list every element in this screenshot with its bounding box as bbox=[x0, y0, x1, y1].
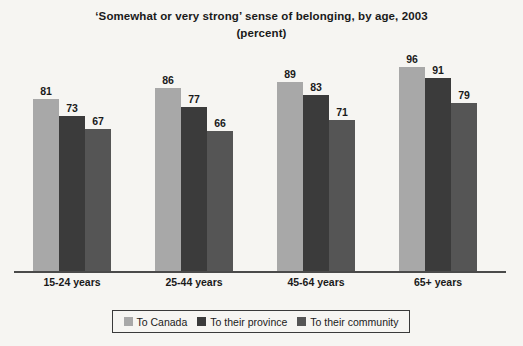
legend-label: To their community bbox=[310, 316, 398, 328]
bar-group: 817367 bbox=[33, 60, 111, 271]
legend-item[interactable]: To Canada bbox=[124, 316, 188, 328]
bar[interactable]: 83 bbox=[303, 95, 329, 271]
legend-item[interactable]: To their community bbox=[297, 316, 398, 328]
bar[interactable]: 67 bbox=[85, 129, 111, 271]
bar[interactable]: 77 bbox=[181, 107, 207, 271]
bar-value-label: 71 bbox=[336, 106, 348, 118]
bar-value-label: 83 bbox=[310, 81, 322, 93]
bar-value-label: 81 bbox=[40, 85, 52, 97]
bar-value-label: 67 bbox=[92, 115, 104, 127]
category-axis-labels: 15-24 years25-44 years45-64 years65+ yea… bbox=[14, 276, 506, 292]
bar[interactable]: 66 bbox=[207, 131, 233, 271]
bar-value-label: 91 bbox=[432, 64, 444, 76]
bar-group: 969179 bbox=[399, 60, 477, 271]
chart-subtitle: (percent) bbox=[0, 25, 523, 42]
legend-label: To their province bbox=[210, 316, 287, 328]
chart-title: ‘Somewhat or very strong’ sense of belon… bbox=[0, 8, 523, 42]
bar[interactable]: 89 bbox=[277, 82, 303, 271]
bar-chart: ‘Somewhat or very strong’ sense of belon… bbox=[0, 0, 523, 346]
bar-value-label: 77 bbox=[188, 93, 200, 105]
legend-label: To Canada bbox=[137, 316, 188, 328]
category-label: 15-24 years bbox=[33, 276, 111, 288]
bar[interactable]: 96 bbox=[399, 67, 425, 271]
bar-group: 867766 bbox=[155, 60, 233, 271]
bar[interactable]: 86 bbox=[155, 88, 181, 271]
bar[interactable]: 81 bbox=[33, 99, 59, 271]
bar-value-label: 79 bbox=[458, 89, 470, 101]
bar[interactable]: 91 bbox=[425, 78, 451, 271]
bar[interactable]: 73 bbox=[59, 116, 85, 271]
category-label: 25-44 years bbox=[155, 276, 233, 288]
bar-value-label: 96 bbox=[406, 53, 418, 65]
plot-area: 817367867766898371969179 bbox=[14, 60, 506, 273]
bar-value-label: 89 bbox=[284, 68, 296, 80]
bar[interactable]: 79 bbox=[451, 103, 477, 271]
x-axis-line bbox=[14, 271, 506, 273]
chart-legend: To CanadaTo their provinceTo their commu… bbox=[112, 310, 410, 333]
legend-swatch-icon bbox=[197, 317, 206, 326]
bar-value-label: 73 bbox=[66, 102, 78, 114]
legend-swatch-icon bbox=[124, 317, 133, 326]
bar-value-label: 66 bbox=[214, 117, 226, 129]
bar-value-label: 86 bbox=[162, 74, 174, 86]
legend-item[interactable]: To their province bbox=[197, 316, 287, 328]
bar-group: 898371 bbox=[277, 60, 355, 271]
chart-title-line-1: ‘Somewhat or very strong’ sense of belon… bbox=[95, 10, 427, 22]
category-label: 45-64 years bbox=[277, 276, 355, 288]
legend-swatch-icon bbox=[297, 317, 306, 326]
bar[interactable]: 71 bbox=[329, 120, 355, 271]
category-label: 65+ years bbox=[399, 276, 477, 288]
